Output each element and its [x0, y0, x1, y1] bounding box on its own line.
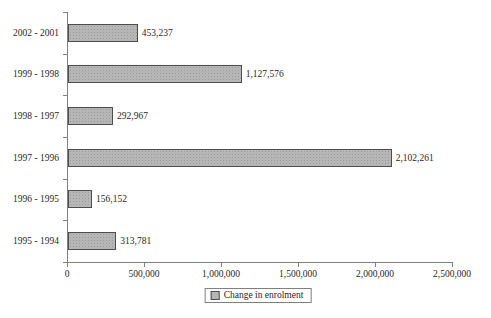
category-label: 1996 - 1995 [13, 179, 59, 221]
y-tick-mark [63, 95, 67, 96]
y-tick-mark [63, 12, 67, 13]
x-tick-label: 1,500,000 [279, 269, 317, 279]
bar [68, 232, 116, 250]
value-label: 453,237 [142, 12, 173, 54]
bar-row: 1996 - 1995156,152 [67, 179, 452, 221]
value-label: 292,967 [117, 95, 148, 137]
y-tick-mark [63, 137, 67, 138]
y-tick-mark [63, 54, 67, 55]
x-tick-mark [375, 263, 376, 267]
x-tick-mark [298, 263, 299, 267]
category-label: 1998 - 1997 [13, 95, 59, 137]
value-label: 156,152 [96, 179, 127, 221]
bar-row: 1998 - 1997292,967 [67, 95, 452, 137]
category-label: 1997 - 1996 [13, 137, 59, 179]
bar [68, 149, 392, 167]
legend: Change in enrolment [205, 288, 312, 303]
plot-area: 2002 - 2001453,2371999 - 19981,127,57619… [67, 12, 452, 262]
category-label: 1995 - 1994 [13, 220, 59, 262]
category-label: 2002 - 2001 [13, 12, 59, 54]
bar [68, 24, 138, 42]
x-tick-label: 500,000 [129, 269, 160, 279]
x-tick-label: 1,000,000 [202, 269, 240, 279]
x-tick-label: 2,000,000 [356, 269, 394, 279]
bar [68, 107, 113, 125]
bar [68, 190, 92, 208]
bar-row: 1995 - 1994313,781 [67, 220, 452, 262]
bar-row: 1999 - 19981,127,576 [67, 54, 452, 96]
y-tick-mark [63, 262, 67, 263]
value-label: 313,781 [120, 220, 151, 262]
value-label: 1,127,576 [246, 54, 284, 96]
legend-swatch-icon [211, 291, 220, 300]
x-tick-label: 0 [65, 269, 70, 279]
x-tick-mark [144, 263, 145, 267]
value-label: 2,102,261 [396, 137, 434, 179]
y-tick-mark [63, 179, 67, 180]
bar-chart: 2002 - 2001453,2371999 - 19981,127,57619… [0, 0, 491, 318]
bar [68, 65, 242, 83]
bar-row: 1997 - 19962,102,261 [67, 137, 452, 179]
category-label: 1999 - 1998 [13, 54, 59, 96]
x-tick-mark [221, 263, 222, 267]
x-tick-mark [452, 263, 453, 267]
y-tick-mark [63, 220, 67, 221]
bar-row: 2002 - 2001453,237 [67, 12, 452, 54]
x-tick-mark [67, 263, 68, 267]
legend-label: Change in enrolment [224, 290, 304, 300]
x-axis-line [67, 262, 453, 263]
x-tick-label: 2,500,000 [433, 269, 471, 279]
